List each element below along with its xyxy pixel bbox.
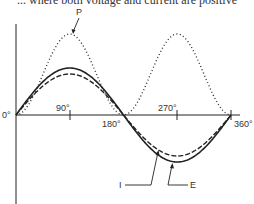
tick-label-90: 90° (56, 103, 70, 113)
waveform-diagram: 0° 90° 180° 270° 360° P I E (0, 0, 254, 204)
e-arrowhead-icon (170, 163, 174, 169)
label-p: P (76, 7, 82, 17)
label-e: E (190, 180, 196, 190)
tick-label-180: 180° (102, 119, 121, 129)
origin-label: 0° (2, 110, 11, 120)
label-i: I (119, 180, 122, 190)
p-arrowhead-icon (72, 29, 76, 34)
tick-label-360: 360° (234, 119, 253, 129)
i-leader (125, 152, 158, 185)
tick-label-270: 270° (158, 103, 177, 113)
power-curve-p (16, 34, 231, 115)
